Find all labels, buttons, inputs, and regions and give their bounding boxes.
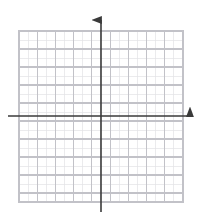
coordinate-plane-figure: [0, 0, 201, 220]
graph-canvas: [0, 0, 201, 220]
